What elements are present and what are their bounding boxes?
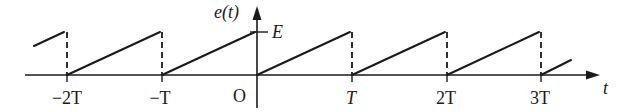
tick-label-2t: 2T: [436, 88, 456, 108]
sawtooth-diagram: e(t) E O t −2T −T T 2T 3T: [0, 0, 625, 111]
x-ticks: [67, 75, 541, 82]
tick-label-minus-t: −T: [149, 88, 170, 108]
origin-label: O: [233, 86, 246, 106]
x-axis-label: t: [603, 78, 609, 98]
tick-label-t: T: [346, 88, 358, 108]
x-axis-arrow-icon: [586, 71, 600, 80]
tick-label-minus-2t: −2T: [52, 88, 82, 108]
function-label: e(t): [214, 2, 239, 23]
y-axis-arrow-icon: [253, 6, 262, 20]
amplitude-label: E: [271, 22, 283, 42]
sawtooth-waveform: [34, 32, 571, 75]
x-axis: [25, 71, 600, 80]
tick-label-3t: 3T: [530, 88, 550, 108]
y-axis: [250, 6, 268, 108]
